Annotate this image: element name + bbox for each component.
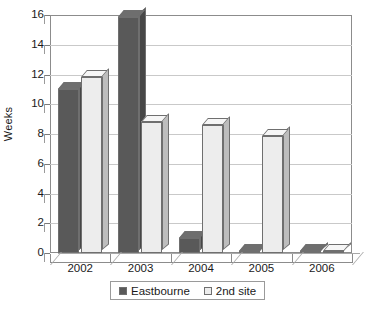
y-tick-label: 4 (18, 188, 44, 200)
legend-item-eastbourne: Eastbourne (119, 285, 190, 297)
x-tick-label-2006: 2006 (292, 262, 352, 274)
x-tick-mark (50, 254, 51, 263)
y-tick-label: 12 (18, 69, 44, 81)
bar-2nd-site-2002 (81, 77, 102, 253)
bar-eastbourne-2002 (58, 89, 79, 253)
bar-chart: Weeks 0246810121416 20022003200420052006… (0, 0, 368, 310)
y-tick-label: 10 (18, 98, 44, 110)
bar-side-face (102, 68, 109, 249)
y-tick-label: 6 (18, 158, 44, 170)
bar-eastbourne-2004 (179, 238, 200, 253)
x-tick-mark (352, 254, 353, 263)
x-tick-label-2002: 2002 (50, 262, 110, 274)
bar-side-face (162, 113, 169, 250)
bar-side-face (223, 116, 230, 250)
chart-legend: Eastbourne2nd site (110, 281, 265, 300)
legend-label: 2nd site (216, 285, 256, 297)
y-tick-label: 0 (18, 247, 44, 259)
x-tick-mark (171, 254, 172, 263)
y-tick-label: 8 (18, 128, 44, 140)
bar-2nd-site-2004 (202, 125, 223, 253)
y-axis-title: Weeks (2, 94, 14, 154)
bar-front-face (179, 238, 200, 253)
y-tick-label: 14 (18, 39, 44, 51)
y-tick-label: 16 (18, 9, 44, 21)
legend-item-2nd-site: 2nd site (204, 285, 256, 297)
legend-label: Eastbourne (131, 285, 190, 297)
bar-front-face (262, 136, 283, 254)
plot-area (50, 15, 352, 253)
bar-front-face (58, 89, 79, 253)
bar-eastbourne-2003 (118, 17, 139, 254)
bar-front-face (118, 17, 139, 254)
y-tick-label: 2 (18, 217, 44, 229)
x-tick-mark (292, 254, 293, 263)
x-tick-label-2004: 2004 (171, 262, 231, 274)
legend-swatch-icon (204, 287, 212, 295)
x-tick-mark (110, 254, 111, 263)
x-tick-label-2005: 2005 (231, 262, 291, 274)
bar-front-face (81, 77, 102, 253)
x-tick-label-2003: 2003 (111, 262, 171, 274)
bar-2nd-site-2005 (262, 136, 283, 254)
bar-2nd-site-2003 (141, 122, 162, 253)
bar-side-face (283, 126, 290, 249)
bar-front-face (141, 122, 162, 253)
legend-swatch-icon (119, 287, 127, 295)
bar-front-face (202, 125, 223, 253)
floor-back-edge (58, 253, 360, 254)
gridline (50, 45, 352, 46)
x-tick-mark (231, 254, 232, 263)
